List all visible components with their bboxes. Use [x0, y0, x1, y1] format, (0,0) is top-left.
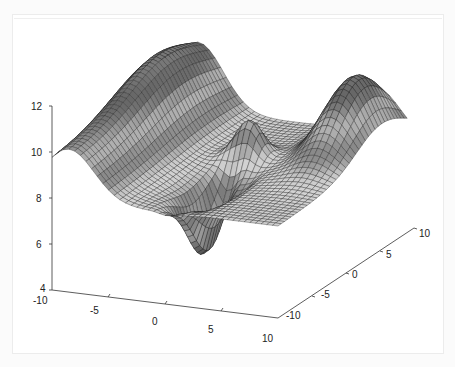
x-tick-neg5: -5 — [90, 305, 99, 316]
z-tick-4: 4 — [40, 283, 46, 294]
x-tick-10: 10 — [262, 333, 274, 344]
y-axis-ticks — [312, 228, 417, 297]
z-tick-8: 8 — [36, 193, 42, 204]
x-axis-ticks — [108, 294, 223, 311]
y-tick-0: 0 — [352, 269, 358, 280]
y-tick-5: 5 — [386, 249, 392, 260]
z-axis-ticks — [49, 106, 52, 290]
y-tick-neg5: -5 — [321, 289, 330, 300]
z-tick-10: 10 — [31, 147, 43, 158]
y-tick-neg10: -10 — [286, 310, 301, 321]
surface-mesh — [52, 42, 407, 254]
z-tick-12: 12 — [31, 101, 43, 112]
z-tick-6: 6 — [36, 239, 42, 250]
y-tick-10: 10 — [419, 228, 431, 239]
x-tick-0: 0 — [152, 316, 158, 327]
x-tick-neg10: -10 — [33, 295, 48, 306]
surface-plot: 12 10 8 6 4 -10 -5 0 5 10 -10 -5 0 5 10 — [0, 0, 455, 367]
x-tick-5: 5 — [208, 324, 214, 335]
